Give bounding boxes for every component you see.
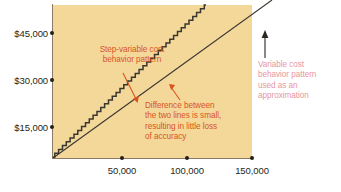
y-tick-label-45000: $45,000 xyxy=(0,28,48,39)
y-tick-marker-45000 xyxy=(50,31,54,35)
x-tick-marker-100000 xyxy=(185,156,189,160)
annotation-variable-approximation: Variable cost behavior pattern used as a… xyxy=(258,60,340,102)
annotation-step-variable-line-2: behavior pattern xyxy=(76,55,188,65)
annotation-difference-line-3: resulting in little loss xyxy=(145,122,255,132)
annotation-difference: Difference between the two lines is smal… xyxy=(145,101,255,143)
annotation-step-variable-line-1: Step-variable cost xyxy=(76,45,188,55)
annotation-variable-line-1: Variable cost xyxy=(258,60,340,70)
x-tick-label-100000: 100,000 xyxy=(157,165,217,176)
annotation-variable-line-2: behavior pattern xyxy=(258,70,340,80)
difference-arrow xyxy=(169,84,180,100)
x-tick-marker-150000 xyxy=(250,156,254,160)
x-tick-label-150000: 150,000 xyxy=(222,165,282,176)
annotation-variable-line-4: approximation xyxy=(258,91,340,101)
y-tick-marker-15000 xyxy=(50,125,54,129)
x-tick-marker-50000 xyxy=(120,156,124,160)
y-tick-label-30000: $30,000 xyxy=(0,75,48,86)
x-tick-label-50000: 50,000 xyxy=(92,165,152,176)
y-tick-marker-30000 xyxy=(50,78,54,82)
variable-cost-arrow xyxy=(262,30,269,58)
annotation-difference-line-1: Difference between xyxy=(145,101,255,111)
annotation-difference-line-4: of accuracy xyxy=(145,132,255,142)
cost-behavior-chart: $45,000 $30,000 $15,000 50,000 100,000 1… xyxy=(0,0,341,192)
y-tick-label-15000: $15,000 xyxy=(0,122,48,133)
annotation-variable-line-3: used as an xyxy=(258,81,340,91)
annotation-step-variable: Step-variable cost behavior pattern xyxy=(76,45,188,66)
annotation-difference-line-2: the two lines is small, xyxy=(145,111,255,121)
